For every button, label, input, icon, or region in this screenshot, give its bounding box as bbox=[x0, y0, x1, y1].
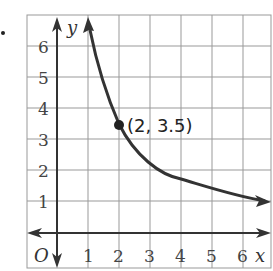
svg-text:5: 5 bbox=[38, 68, 49, 88]
svg-text:3: 3 bbox=[144, 246, 155, 266]
point-marker bbox=[114, 120, 124, 130]
point-label: (2, 3.5) bbox=[127, 115, 193, 136]
x-tick-labels: 1 2 3 4 5 6 bbox=[83, 246, 248, 266]
y-tick-labels: 6 5 4 3 2 1 bbox=[38, 37, 49, 212]
svg-text:1: 1 bbox=[38, 192, 49, 212]
bullet-mark bbox=[1, 31, 5, 35]
svg-text:3: 3 bbox=[38, 130, 49, 150]
axes bbox=[27, 17, 271, 268]
y-axis-label: y bbox=[66, 17, 78, 38]
svg-text:4: 4 bbox=[38, 99, 49, 119]
svg-text:5: 5 bbox=[206, 246, 217, 266]
svg-text:1: 1 bbox=[83, 246, 94, 266]
origin-label: O bbox=[34, 245, 49, 266]
svg-text:2: 2 bbox=[113, 246, 124, 266]
svg-text:2: 2 bbox=[38, 161, 49, 181]
graph: 6 5 4 3 2 1 1 2 3 4 5 6 O x y (2, 3.5) bbox=[0, 0, 273, 271]
svg-text:6: 6 bbox=[38, 37, 49, 57]
svg-text:4: 4 bbox=[175, 246, 186, 266]
svg-text:6: 6 bbox=[237, 246, 248, 266]
grid bbox=[27, 15, 271, 268]
x-axis-label: x bbox=[255, 245, 265, 266]
